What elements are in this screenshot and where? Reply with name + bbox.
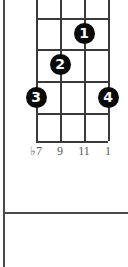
- chord-diagram: 1234: [36, 0, 108, 141]
- section-divider-rule: [3, 212, 128, 214]
- string-line-1: [36, 0, 38, 141]
- fretboard-grid: [36, 0, 108, 141]
- interval-label-4: 1: [93, 143, 123, 159]
- left-margin-rule: [3, 0, 5, 267]
- fret-line-2: [36, 49, 108, 51]
- fret-line-3: [36, 81, 108, 83]
- finger-dot-4: 4: [98, 87, 119, 108]
- string-line-3: [84, 0, 86, 141]
- interval-label-row: ♭79111: [36, 143, 108, 161]
- fret-line-4: [36, 113, 108, 115]
- string-line-4: [108, 0, 110, 141]
- finger-dot-2: 2: [50, 54, 71, 75]
- fret-line-1: [36, 18, 108, 20]
- finger-dot-1: 1: [74, 23, 95, 44]
- finger-dot-3: 3: [26, 87, 47, 108]
